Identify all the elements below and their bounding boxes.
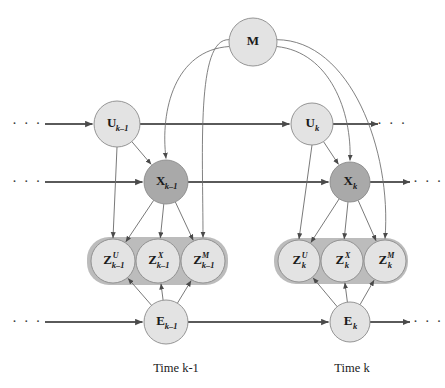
graphical-model-diagram: MUk–1UkXk–1XkZk–1UZk–1XZk–1MZkUZkXZkMEk–… bbox=[0, 0, 445, 388]
node-Ek[interactable]: Ek bbox=[330, 302, 370, 342]
caption-time-k: Time k bbox=[334, 361, 370, 375]
edge-m-zmk bbox=[277, 40, 386, 239]
node-subscript-ZUkm1: k–1 bbox=[112, 260, 125, 270]
ellipsis-e-left: · · · bbox=[12, 313, 42, 329]
ellipsis-u-right: · · · bbox=[377, 115, 407, 131]
caption-time-km1: Time k-1 bbox=[153, 361, 199, 375]
node-label-ZXk: Z bbox=[335, 252, 344, 267]
node-label-Ekm1: E bbox=[156, 313, 165, 328]
node-Xkm1[interactable]: Xk–1 bbox=[144, 160, 188, 204]
node-ZMkm1[interactable]: Zk–1M bbox=[181, 239, 225, 283]
node-subscript-Xkm1: k–1 bbox=[165, 181, 178, 191]
node-ZXk[interactable]: ZkX bbox=[321, 240, 363, 282]
edge-xk-zmk bbox=[358, 200, 376, 241]
node-superscript-ZMk: M bbox=[386, 251, 395, 260]
node-subscript-Xk: k bbox=[353, 181, 358, 191]
edge-ukm1-zukm1 bbox=[113, 147, 117, 238]
edge-xkm1-zmkm1 bbox=[175, 202, 193, 240]
node-M[interactable]: M bbox=[229, 18, 277, 66]
node-subscript-ZMkm1: k–1 bbox=[202, 260, 215, 270]
ellipsis-u-left: · · · bbox=[12, 115, 42, 131]
node-subscript-Ek: k bbox=[353, 321, 358, 331]
edge-xkm1-zxkm1 bbox=[160, 204, 164, 238]
ellipsis-x-right: · · · bbox=[413, 173, 443, 189]
edge-xk-zuk bbox=[311, 199, 339, 243]
node-label-Uk: U bbox=[306, 115, 316, 130]
node-label-M: M bbox=[247, 33, 259, 48]
node-Xk[interactable]: Xk bbox=[330, 162, 370, 202]
ellipsis-x-left: · · · bbox=[12, 173, 42, 189]
node-subscript-ZXkm1: k–1 bbox=[157, 260, 170, 270]
ellipsis-e-right: · · · bbox=[413, 313, 443, 329]
edge-uk-xk bbox=[324, 142, 339, 165]
edge-ek-zxk bbox=[345, 283, 348, 302]
edge-uk-zuk bbox=[299, 145, 312, 239]
edge-xk-zxk bbox=[344, 202, 348, 239]
node-subscript-Uk: k bbox=[315, 123, 320, 133]
edge-ukm1-xkm1 bbox=[132, 142, 151, 165]
node-label-ZUk: Z bbox=[292, 252, 301, 267]
node-superscript-ZXkm1: X bbox=[157, 251, 164, 260]
node-ZXkm1[interactable]: Zk–1X bbox=[136, 239, 180, 283]
edge-ekm1-zxkm1 bbox=[161, 284, 163, 300]
node-subscript-Ekm1: k–1 bbox=[165, 321, 178, 331]
node-Ekm1[interactable]: Ek–1 bbox=[144, 300, 188, 344]
node-ZUkm1[interactable]: Zk–1U bbox=[91, 239, 135, 283]
node-subscript-Ukm1: k–1 bbox=[116, 123, 129, 133]
node-label-Xk: X bbox=[344, 173, 354, 188]
node-ZMk[interactable]: ZkM bbox=[364, 240, 406, 282]
edge-m-xkm1 bbox=[165, 47, 230, 159]
node-label-ZMk: Z bbox=[378, 252, 387, 267]
node-superscript-ZMkm1: M bbox=[201, 251, 210, 260]
node-Ukm1[interactable]: Uk–1 bbox=[94, 101, 140, 147]
node-Uk[interactable]: Uk bbox=[291, 103, 333, 145]
edge-xkm1-zukm1 bbox=[126, 200, 154, 242]
node-label-Ek: E bbox=[344, 313, 353, 328]
edge-m-zmkm1 bbox=[202, 40, 229, 238]
node-ZUk[interactable]: ZkU bbox=[278, 240, 320, 282]
node-superscript-ZXk: X bbox=[344, 251, 351, 260]
